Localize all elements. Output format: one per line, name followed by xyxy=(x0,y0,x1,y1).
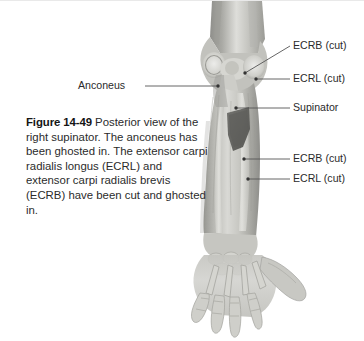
label-ecrb-cut-proximal: ECRB (cut) xyxy=(293,40,347,51)
lateral-epicondyle xyxy=(243,55,265,79)
label-anconeus: Anconeus xyxy=(78,80,125,91)
figure-caption: Figure 14-49 Posterior view of the right… xyxy=(26,115,208,217)
label-ecrb-cut-distal: ECRB (cut) xyxy=(293,153,347,164)
figure-caption-text: Posterior view of the right supinator. T… xyxy=(26,116,208,216)
label-ecrl-cut-distal: ECRL (cut) xyxy=(293,173,345,184)
label-ecrl-cut-proximal: ECRL (cut) xyxy=(293,73,345,84)
figure-number: Figure 14-49 xyxy=(26,116,92,128)
label-supinator: Supinator xyxy=(293,102,338,113)
figure-container: ECRB (cut) ECRL (cut) Supinator ECRB (cu… xyxy=(0,0,364,341)
